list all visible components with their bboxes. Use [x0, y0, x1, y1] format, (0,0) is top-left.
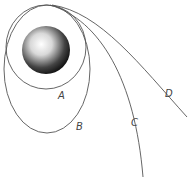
- label-b: B: [76, 121, 83, 132]
- label-d: D: [165, 88, 173, 99]
- orbit-diagram: A B C D: [0, 0, 189, 186]
- planet: [22, 26, 70, 74]
- label-a: A: [57, 90, 65, 101]
- label-c: C: [131, 117, 138, 128]
- trajectory-d: [52, 5, 187, 117]
